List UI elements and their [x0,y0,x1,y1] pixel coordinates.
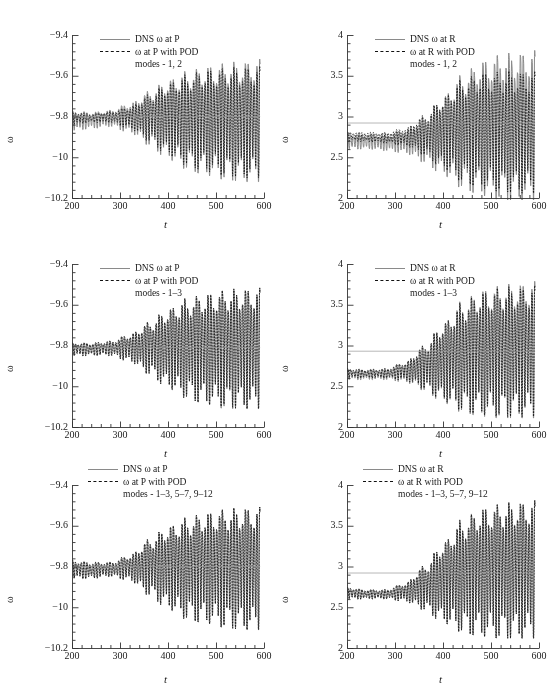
legend-solid-line-icon [100,268,130,270]
legend-item-dns: DNS ω at R [375,33,475,46]
legend-label-dns: DNS ω at P [123,463,168,476]
legend-label-dns: DNS ω at R [398,463,444,476]
x-axis-label-top-right: t [439,218,442,230]
legend-label-modes: modes - 1–3, 5–7, 9–12 [398,488,488,501]
legend-item-dns: DNS ω at P [88,463,213,476]
panel-top-right: ω t DNS ω at R ω at R with POD modes - 1… [275,8,549,237]
legend-item-pod: ω at P with POD [100,46,198,59]
legend-item-modes: modes - 1–3 [375,287,475,300]
legend-item-pod: ω at R with POD [375,46,475,59]
legend-spacer [375,293,405,294]
legend-mid-right: DNS ω at R ω at R with POD modes - 1–3 [375,262,475,300]
legend-label-dns: DNS ω at P [135,262,180,275]
legend-spacer [100,64,130,65]
y-axis-label-mid-left: ω [4,365,15,372]
panel-top-left: ω t DNS ω at P ω at P with POD modes - 1… [0,8,274,237]
legend-bottom-left: DNS ω at P ω at P with POD modes - 1–3, … [88,463,213,501]
panel-bottom-right: ω t DNS ω at R ω at R with POD modes - 1… [275,458,549,687]
figure-root: ω t DNS ω at P ω at P with POD modes - 1… [0,0,549,689]
legend-solid-line-icon [100,39,130,41]
legend-label-pod: ω at P with POD [135,46,198,59]
panel-mid-right: ω t DNS ω at R ω at R with POD modes - 1… [275,237,549,466]
y-axis-label-bottom-left: ω [4,596,15,603]
legend-item-modes: modes - 1, 2 [100,58,198,71]
legend-top-left: DNS ω at P ω at P with POD modes - 1, 2 [100,33,198,71]
panel-mid-left: ω t DNS ω at P ω at P with POD modes - 1… [0,237,274,466]
legend-label-modes: modes - 1–3 [410,287,457,300]
legend-solid-line-icon [88,469,118,471]
legend-item-modes: modes - 1–3, 5–7, 9–12 [363,488,488,501]
legend-label-pod: ω at R with POD [410,275,475,288]
legend-label-pod: ω at P with POD [135,275,198,288]
legend-spacer [88,494,118,495]
legend-item-dns: DNS ω at P [100,33,198,46]
legend-label-modes: modes - 1, 2 [410,58,457,71]
legend-solid-line-icon [363,469,393,471]
legend-item-modes: modes - 1–3 [100,287,198,300]
legend-item-pod: ω at P with POD [100,275,198,288]
legend-item-dns: DNS ω at R [363,463,488,476]
legend-label-pod: ω at R with POD [410,46,475,59]
legend-label-dns: DNS ω at R [410,33,456,46]
legend-item-dns: DNS ω at P [100,262,198,275]
legend-label-modes: modes - 1–3 [135,287,182,300]
legend-label-modes: modes - 1, 2 [135,58,182,71]
legend-solid-line-icon [375,268,405,270]
legend-dashed-line-icon [100,280,130,281]
legend-label-pod: ω at R with POD [398,476,463,489]
y-axis-label-top-right: ω [279,136,290,143]
legend-label-pod: ω at P with POD [123,476,186,489]
legend-item-pod: ω at P with POD [88,476,213,489]
legend-dashed-line-icon [375,280,405,281]
legend-label-modes: modes - 1–3, 5–7, 9–12 [123,488,213,501]
legend-dashed-line-icon [363,481,393,482]
x-axis-label-bottom-left: t [164,673,167,685]
panel-bottom-left: ω t DNS ω at P ω at P with POD modes - 1… [0,458,274,687]
legend-item-pod: ω at R with POD [363,476,488,489]
legend-item-modes: modes - 1, 2 [375,58,475,71]
y-axis-label-top-left: ω [4,136,15,143]
x-axis-label-top-left: t [164,218,167,230]
legend-top-right: DNS ω at R ω at R with POD modes - 1, 2 [375,33,475,71]
legend-mid-left: DNS ω at P ω at P with POD modes - 1–3 [100,262,198,300]
legend-label-dns: DNS ω at R [410,262,456,275]
legend-spacer [363,494,393,495]
legend-spacer [100,293,130,294]
legend-dashed-line-icon [88,481,118,482]
legend-bottom-right: DNS ω at R ω at R with POD modes - 1–3, … [363,463,488,501]
legend-dashed-line-icon [100,51,130,52]
y-axis-label-mid-right: ω [279,365,290,372]
legend-label-dns: DNS ω at P [135,33,180,46]
x-axis-label-bottom-right: t [439,673,442,685]
y-axis-label-bottom-right: ω [279,596,290,603]
legend-spacer [375,64,405,65]
legend-dashed-line-icon [375,51,405,52]
legend-item-pod: ω at R with POD [375,275,475,288]
legend-item-dns: DNS ω at R [375,262,475,275]
legend-solid-line-icon [375,39,405,41]
legend-item-modes: modes - 1–3, 5–7, 9–12 [88,488,213,501]
